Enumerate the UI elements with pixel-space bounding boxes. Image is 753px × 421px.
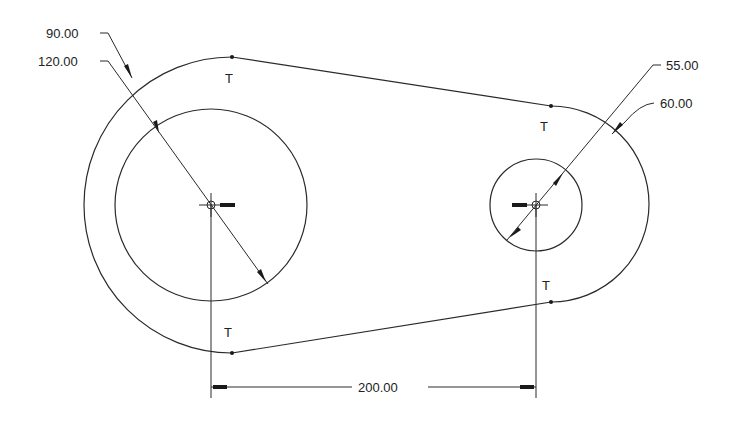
dim-120-leader[interactable] (100, 61, 268, 284)
tangent-point-top-left (230, 55, 234, 59)
tangent-point-bottom-left (230, 351, 234, 355)
tangent-constraint-bottom-left[interactable]: T (224, 326, 232, 339)
dim-90-leader[interactable] (100, 33, 132, 78)
top-tangent-line[interactable] (232, 57, 551, 106)
dim-label-55[interactable]: 55.00 (666, 59, 699, 72)
dim-200-center-distance[interactable] (211, 205, 536, 398)
dim-55-leader[interactable] (507, 65, 661, 240)
dim-label-200[interactable]: 200.00 (358, 381, 398, 394)
tangent-point-top-right (549, 104, 553, 108)
dim-label-60[interactable]: 60.00 (660, 97, 693, 110)
dim-label-90[interactable]: 90.00 (46, 27, 79, 40)
dim-label-120[interactable]: 120.00 (38, 55, 78, 68)
bottom-tangent-line[interactable] (232, 302, 551, 353)
sketch-canvas (0, 0, 753, 421)
tangent-constraint-top-right[interactable]: T (540, 120, 548, 133)
tangent-constraint-top-left[interactable]: T (225, 72, 233, 85)
tangent-point-bottom-right (549, 300, 553, 304)
tangent-constraint-bottom-right[interactable]: T (542, 279, 550, 292)
dim-60-leader[interactable] (612, 103, 654, 134)
right-outer-arc[interactable] (551, 106, 649, 302)
